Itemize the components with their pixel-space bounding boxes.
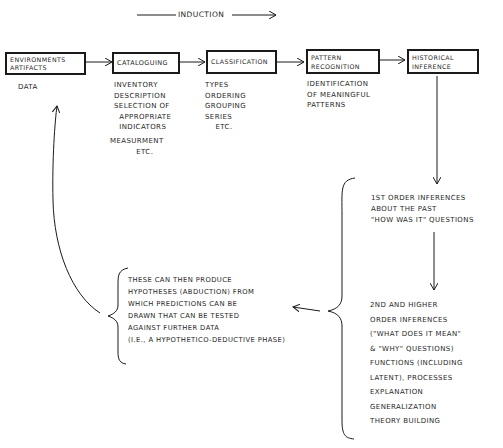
induction-label: INDUCTION — [178, 10, 224, 21]
caption-cataloguing-measurement: MEASURMENT ETC. — [110, 136, 164, 157]
caption-data: DATA — [18, 82, 38, 93]
caption-classification: TYPES ORDERING GROUPING SERIES ETC. — [205, 80, 246, 133]
arrow-inferences-to-hypotheses — [293, 307, 320, 311]
inferences-brace — [328, 178, 355, 439]
box-label: PATTERN RECOGNITION — [311, 53, 375, 71]
box-cataloguing: CATALOGUING — [112, 52, 180, 74]
first-order-inferences: 1ST ORDER INFERENCES ABOUT THE PAST "HOW… — [371, 193, 474, 226]
box-environments-artifacts: ENVIRONMENTS ARTIFACTS — [5, 52, 86, 75]
box-pattern-recognition: PATTERN RECOGNITION — [306, 49, 380, 74]
box-label: CATALOGUING — [117, 56, 175, 70]
box-label: ENVIRONMENTS ARTIFACTS — [10, 56, 81, 72]
box-historical-inference: HISTORICAL INFERENCE — [407, 49, 479, 74]
hypotheses-brace — [108, 268, 128, 364]
box-label: CLASSIFICATION — [211, 54, 272, 70]
second-order-inferences: 2ND AND HIGHER ORDER INFERENCES ("WHAT D… — [370, 298, 463, 429]
box-label: HISTORICAL INFERENCE — [412, 53, 474, 71]
hypotheses-text: THESE CAN THEN PRODUCE HYPOTHESES (ABDUC… — [128, 274, 285, 346]
box-classification: CLASSIFICATION — [206, 50, 277, 74]
caption-cataloguing: INVENTORY DESCRIPTION SELECTION OF APPRO… — [114, 80, 171, 133]
caption-pattern-recognition: IDENTIFICATION OF MEANINGFUL PATTERNS — [307, 79, 370, 111]
arrow-feedback-to-data — [53, 106, 100, 313]
